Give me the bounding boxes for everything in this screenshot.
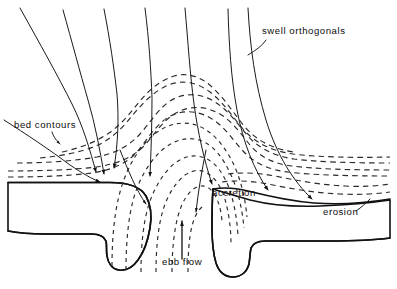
label-accretion: accretion: [212, 187, 256, 198]
diagram-canvas: swell orthogonals bed contours ebb flow …: [0, 0, 397, 289]
label-swell-orthogonals: swell orthogonals: [262, 25, 345, 36]
figure-background: [0, 0, 397, 289]
label-ebb-flow: ebb flow: [162, 256, 202, 267]
label-erosion: erosion: [323, 206, 358, 217]
coastal-process-diagram: swell orthogonals bed contours ebb flow …: [0, 0, 397, 289]
label-bed-contours: bed contours: [14, 119, 76, 130]
